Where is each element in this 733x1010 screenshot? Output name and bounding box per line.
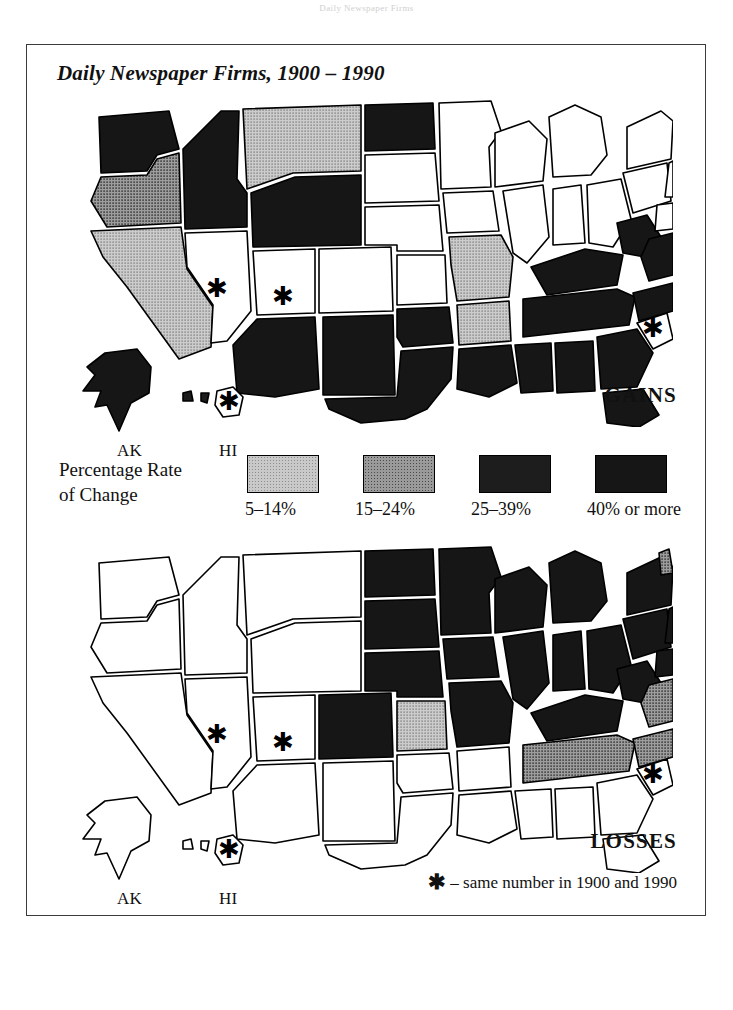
clipped-header-text: Daily Newspaper Firms — [0, 0, 733, 14]
state-wi — [495, 121, 547, 187]
legend-title: Percentage Rate of Change — [59, 457, 182, 507]
figure-frame: Daily Newspaper Firms, 1900 – 1990 — [26, 44, 706, 916]
state-la-l — [457, 791, 517, 843]
legend-label-0: 5–14% — [245, 499, 296, 520]
state-md-l — [655, 649, 673, 677]
panel-label-gains: GAINS — [604, 383, 677, 408]
legend-title-line1: Percentage Rate — [59, 457, 182, 482]
asterisk-icon: ✱ — [428, 870, 446, 894]
footnote: ✱ – same number in 1900 and 1990 — [428, 870, 677, 895]
state-mn-l — [439, 547, 501, 635]
state-al — [555, 341, 595, 393]
state-ks — [397, 255, 447, 305]
label-ak-losses: AK — [117, 889, 142, 909]
star-utah: ✱ — [272, 281, 294, 311]
hawaii-isle-2-l — [201, 841, 209, 851]
hawaii-isle-1-l — [183, 839, 193, 849]
figure-title: Daily Newspaper Firms, 1900 – 1990 — [57, 61, 385, 86]
state-mo-l — [449, 681, 513, 747]
state-ok-l — [397, 753, 453, 793]
panel-label-losses: LOSSES — [590, 829, 677, 854]
state-ky — [531, 249, 623, 295]
legend-label-1: 15–24% — [355, 499, 415, 520]
state-nd-l — [365, 549, 435, 597]
state-ky-l — [531, 695, 623, 741]
state-sd-l — [365, 599, 439, 649]
map-figure: Daily Newspaper Firms Daily Newspaper Fi… — [0, 0, 733, 1010]
state-mn — [439, 101, 501, 189]
state-mi — [549, 105, 607, 177]
footnote-text: – same number in 1900 and 1990 — [450, 873, 677, 892]
state-la — [457, 345, 517, 397]
state-mi-l — [549, 551, 607, 623]
state-id-l — [183, 557, 247, 675]
state-ne — [365, 205, 443, 251]
state-id — [183, 111, 247, 229]
state-co-l — [319, 693, 393, 759]
state-md — [655, 203, 673, 231]
legend-swatch-1 — [363, 455, 435, 493]
legend-label-3: 40% or more — [587, 499, 681, 520]
state-ia — [443, 191, 499, 233]
legend-swatch-3 — [595, 455, 667, 493]
star-nevada-l: ✱ — [206, 719, 228, 749]
label-hi-losses: HI — [219, 889, 238, 909]
state-ny — [627, 111, 673, 169]
hawaii-isle-2 — [201, 393, 209, 403]
state-ar-l — [457, 747, 511, 791]
state-ne-l — [365, 651, 443, 697]
state-nm-l — [323, 761, 395, 841]
state-ak-gains — [83, 349, 151, 431]
legend: Percentage Rate of Change 5–14% 15–24% 2… — [59, 455, 705, 539]
state-vt-l — [659, 549, 673, 575]
legend-title-line2: of Change — [59, 482, 182, 507]
state-ks-l — [397, 701, 447, 751]
legend-swatch-0 — [247, 455, 319, 493]
state-ia-l — [443, 637, 499, 679]
legend-label-2: 25–39% — [471, 499, 531, 520]
state-tn-l — [523, 735, 635, 783]
star-hawaii: ✱ — [218, 386, 240, 416]
state-wy — [251, 175, 361, 247]
state-ak-losses — [83, 797, 151, 879]
star-southcarolina-l: ✱ — [642, 759, 664, 789]
hawaii-isle-1 — [183, 391, 193, 401]
state-ar — [457, 301, 511, 345]
state-al-l — [555, 787, 595, 839]
legend-swatch-2 — [479, 455, 551, 493]
state-wy-l — [251, 621, 361, 693]
gains-inset-ak-hi[interactable]: ✱ — [65, 345, 255, 437]
losses-inset-ak-hi[interactable]: ✱ — [65, 793, 255, 885]
state-mo — [449, 235, 513, 301]
state-in — [553, 185, 585, 245]
star-southcarolina: ✱ — [642, 313, 664, 343]
state-co — [319, 247, 393, 313]
state-nd — [365, 103, 435, 151]
state-ms-l — [515, 789, 553, 839]
state-wi-l — [495, 567, 547, 633]
star-nevada: ✱ — [206, 273, 228, 303]
star-utah-l: ✱ — [272, 727, 294, 757]
state-ms — [515, 343, 553, 393]
state-in-l — [553, 631, 585, 691]
state-ok — [397, 307, 453, 347]
state-tn — [523, 289, 635, 337]
star-hawaii-l: ✱ — [218, 834, 240, 864]
state-nm — [323, 315, 395, 395]
state-sd — [365, 153, 439, 203]
